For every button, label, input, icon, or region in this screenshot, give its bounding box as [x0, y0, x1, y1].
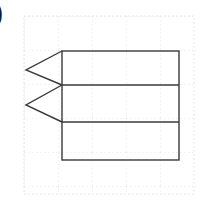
geometric-figure	[0, 0, 220, 200]
grid-fill	[24, 16, 194, 194]
figure-canvas: )	[0, 0, 220, 200]
grid-background	[24, 16, 194, 194]
